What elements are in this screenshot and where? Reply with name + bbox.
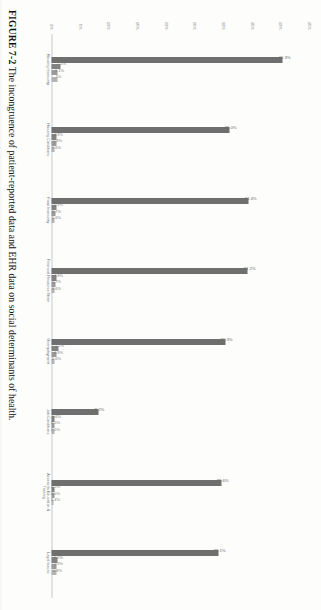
category-label: Housing Conditions <box>21 105 51 176</box>
bar-value-label: 0.5% <box>51 491 60 496</box>
category-label: Food Insecurity <box>21 175 51 246</box>
y-tick-label: 35% <box>249 22 254 30</box>
bar-value-label: 0.8% <box>53 138 62 143</box>
category-label-text: Access to Education & Training <box>40 469 49 515</box>
bar-value-label: 0.7% <box>52 279 61 284</box>
bar-value-label: 0.5% <box>51 427 60 432</box>
y-tick-label: 0% <box>49 24 54 30</box>
bar-value-label: 0.5% <box>51 420 60 425</box>
category-label-text: Housing Insecurity <box>45 54 49 85</box>
bar-value-label: 1.5% <box>57 61 66 66</box>
bar-primary[interactable]: 31.0% <box>51 127 229 133</box>
bar-primary[interactable]: 40.3% <box>51 57 282 63</box>
y-tick-label: 10% <box>106 22 111 30</box>
bar-primary[interactable]: 29.1% <box>51 550 218 556</box>
bar-value-label: 0.9% <box>53 273 62 278</box>
figure-number: FIGURE 7-2 <box>6 10 17 65</box>
bar-value-label: 34.4% <box>244 196 256 201</box>
bar-primary[interactable]: 34.4% <box>51 198 248 204</box>
y-tick-label: 30% <box>221 22 226 30</box>
category-label-text: Food Insecurity <box>45 197 49 223</box>
figure-block: 0%5%10%15%20%25%30%35%40%45% 40.3%1.5%1.… <box>0 0 321 610</box>
bar-group: 31.0%0.9%0.8%0.6% <box>51 105 309 176</box>
bar-secondary[interactable]: 0.8% <box>51 570 56 575</box>
bar-value-label: 0.6% <box>52 356 61 361</box>
rotated-figure-container: 0%5%10%15%20%25%30%35%40%45% 40.3%1.5%1.… <box>0 0 321 610</box>
figure-page: 0%5%10%15%20%25%30%35%40%45% 40.3%1.5%1.… <box>0 0 321 610</box>
bar-value-label: 1.2% <box>55 343 64 348</box>
bar-value-label: 0.9% <box>53 132 62 137</box>
category-label-text: Job Conditions <box>45 409 49 434</box>
y-tick-label: 40% <box>278 22 283 30</box>
bar-value-label: 1.0% <box>54 555 63 560</box>
bar-secondary[interactable]: 0.6% <box>51 359 54 364</box>
bar-primary[interactable]: 30.3% <box>51 339 225 345</box>
bar-value-label: 0.6% <box>52 286 61 291</box>
bar-value-label: 30.3% <box>220 337 232 342</box>
bar-value-label: 0.9% <box>53 561 62 566</box>
bar-value-label: 8.2% <box>95 407 105 412</box>
bar-value-label: 0.5% <box>51 484 60 489</box>
category-label-text: Financial Resource Strain <box>45 259 49 302</box>
category-labels: Housing InsecurityHousing ConditionsFood… <box>21 34 51 598</box>
category-label-text: Housing Conditions <box>45 123 49 156</box>
bar-group: 34.2%0.9%0.7%0.6% <box>51 246 309 317</box>
bar-primary[interactable]: 29.6% <box>51 480 221 486</box>
bar-secondary[interactable]: 1% <box>51 77 57 82</box>
category-label-text: Unemployment <box>45 338 49 364</box>
bar-value-label: 0.9% <box>53 202 62 207</box>
category-label: Legal Issues <box>21 528 51 599</box>
bar-value-label: 1% <box>55 74 61 79</box>
bar-group: 40.3%1.5%1.1%1% <box>51 34 309 105</box>
chart-area: 0%5%10%15%20%25%30%35%40%45% 40.3%1.5%1.… <box>21 8 315 602</box>
bar-value-label: 29.6% <box>216 478 228 483</box>
figure-caption-text: The incongruence of patient-reported dat… <box>6 67 17 421</box>
bar-value-label: 0.7% <box>52 209 61 214</box>
bar-secondary[interactable]: 0.6% <box>51 218 54 223</box>
category-label: Housing Insecurity <box>21 34 51 105</box>
y-tick-label: 20% <box>163 22 168 30</box>
y-tick-label: 25% <box>192 22 197 30</box>
bar-group: 30.3%1.2%0.9%0.6% <box>51 316 309 387</box>
y-tick-label: 45% <box>307 22 312 30</box>
y-tick-label: 15% <box>135 22 140 30</box>
bar-group: 8.2%0.6%0.5%0.5% <box>51 387 309 458</box>
bar-value-label: 34.2% <box>242 266 254 271</box>
bar-value-label: 0.4% <box>50 497 59 502</box>
bar-value-label: 1.1% <box>54 68 63 73</box>
y-tick-label: 5% <box>77 24 82 30</box>
bar-group: 34.4%0.9%0.7%0.6% <box>51 175 309 246</box>
bar-value-label: 0.9% <box>53 350 62 355</box>
figure-caption: FIGURE 7-2 The incongruence of patient-r… <box>0 0 21 610</box>
bar-secondary[interactable]: 0.6% <box>51 147 54 152</box>
category-label: Unemployment <box>21 316 51 387</box>
bar-value-label: 31.0% <box>224 125 236 130</box>
bar-value-label: 29.1% <box>213 548 225 553</box>
category-label: Financial Resource Strain <box>21 246 51 317</box>
bar-primary[interactable]: 34.2% <box>51 268 247 274</box>
bar-value-label: 0.6% <box>52 145 61 150</box>
bar-value-label: 0.6% <box>52 215 61 220</box>
bar-value-label: 0.6% <box>52 414 61 419</box>
bar-group: 29.1%1.0%0.9%0.8% <box>51 528 309 599</box>
bar-secondary[interactable]: 0.6% <box>51 288 54 293</box>
bar-group: 29.6%0.5%0.5%0.4% <box>51 457 309 528</box>
category-label: Access to Education & Training <box>21 457 51 528</box>
category-label: Job Conditions <box>21 387 51 458</box>
bar-value-label: 40.3% <box>277 55 289 60</box>
bar-groups: 40.3%1.5%1.1%1%31.0%0.9%0.8%0.6%34.4%0.9… <box>51 34 309 598</box>
bar-value-label: 0.8% <box>53 568 62 573</box>
category-label-text: Legal Issues <box>45 552 49 573</box>
plot-region: 0%5%10%15%20%25%30%35%40%45% 40.3%1.5%1.… <box>51 34 309 598</box>
